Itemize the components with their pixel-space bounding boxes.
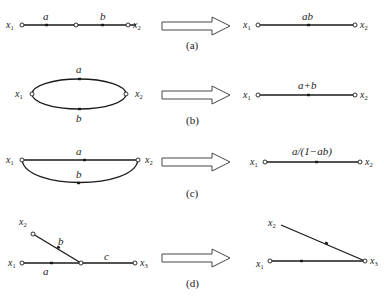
node-intermediate <box>79 261 83 265</box>
label-x1: x1 <box>5 154 14 166</box>
gain-b: b <box>76 168 82 180</box>
node-x1 <box>256 93 260 97</box>
gain-b: b <box>76 112 82 124</box>
label-x1: x1 <box>249 156 258 168</box>
gain-ab: ab <box>302 10 314 22</box>
panel-d-right: x2 x1 x3 <box>255 217 378 270</box>
label-x2: x2 <box>267 217 276 229</box>
node-x2 <box>126 23 130 27</box>
signal-flow-graph-rules: x1 x2 a b (a) x1 x2 ab x1 x2 a b (b) x1 <box>0 0 384 307</box>
label-x1: x1 <box>5 19 14 31</box>
gain-loop: a/(1−ab) <box>292 145 332 158</box>
right-arrow-icon <box>162 17 230 35</box>
caption-a: (a) <box>186 39 199 52</box>
transform-arrow-d: (d) <box>162 249 230 290</box>
right-arrow-icon <box>162 153 230 171</box>
panel-c-left: x1 x2 a b <box>5 145 153 184</box>
panel-d-left: x2 x1 x3 b a c <box>7 216 148 277</box>
node-x3 <box>133 261 137 265</box>
label-x2: x2 <box>132 19 141 31</box>
caption-b: (b) <box>186 114 199 127</box>
transform-arrow-c: (c) <box>162 153 230 200</box>
label-x1: x1 <box>255 258 264 270</box>
node-x2 <box>136 158 140 162</box>
arrow-marker-icon <box>50 262 53 264</box>
node-x2 <box>31 232 35 236</box>
transform-arrow-a: (a) <box>162 17 230 52</box>
node-x2 <box>353 93 357 97</box>
node-x1 <box>20 158 24 162</box>
node-x1 <box>268 259 272 263</box>
caption-c: (c) <box>186 187 199 200</box>
right-arrow-icon <box>162 249 230 267</box>
label-x1: x1 <box>242 19 251 31</box>
label-x2: x2 <box>359 89 368 101</box>
label-x2: x2 <box>134 88 143 100</box>
label-x1: x1 <box>14 88 23 100</box>
gain-b: b <box>100 10 106 22</box>
arrow-marker-icon <box>307 24 310 26</box>
panel-b-left: x1 x2 a b <box>14 63 143 124</box>
label-x1: x1 <box>242 89 251 101</box>
gain-c: c <box>104 250 109 262</box>
node-x2 <box>353 23 357 27</box>
node-intermediate <box>74 23 78 27</box>
arrow-marker-icon <box>78 78 81 80</box>
panel-a-right: x1 x2 ab <box>242 10 368 31</box>
node-x3 <box>363 259 367 263</box>
panel-a-left: x1 x2 a b <box>5 10 141 31</box>
arrow-marker-icon <box>45 24 48 26</box>
arrow-marker-icon <box>78 108 81 110</box>
node-x1 <box>256 23 260 27</box>
label-x1: x1 <box>7 257 16 269</box>
node-x1 <box>20 261 24 265</box>
arrow-marker-icon <box>315 161 318 163</box>
transform-arrow-b: (b) <box>162 86 230 127</box>
right-arrow-icon <box>162 86 230 104</box>
gain-a: a <box>76 63 82 75</box>
gain-a: a <box>43 10 49 22</box>
gain-a: a <box>43 265 49 277</box>
label-x2: x2 <box>364 156 373 168</box>
arrow-marker-icon <box>77 182 80 184</box>
label-x3: x3 <box>369 255 378 267</box>
node-x1 <box>20 23 24 27</box>
arrow-marker-icon <box>300 260 303 262</box>
label-x2: x2 <box>359 19 368 31</box>
panel-c-right: x1 x2 a/(1−ab) <box>249 145 373 168</box>
label-x2: x2 <box>144 154 153 166</box>
arrow-marker-icon <box>83 159 86 161</box>
label-x2: x2 <box>18 216 27 228</box>
caption-d: (d) <box>186 277 199 290</box>
label-x3: x3 <box>139 257 148 269</box>
panel-b-right: x1 x2 a+b <box>242 79 368 101</box>
gain-a-plus-b: a+b <box>298 79 317 91</box>
node-x2 <box>124 92 128 96</box>
gain-b: b <box>58 235 64 247</box>
node-x2 <box>358 160 362 164</box>
gain-a: a <box>76 145 82 157</box>
node-x1 <box>30 92 34 96</box>
arrow-marker-icon <box>101 24 104 26</box>
arrow-marker-icon <box>307 94 310 96</box>
node-x1 <box>263 160 267 164</box>
